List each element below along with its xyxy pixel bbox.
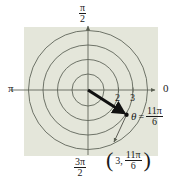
theta-value-fraction: 11π 6 (146, 106, 163, 127)
axis-label-zero: 0 (163, 83, 169, 94)
theta-equals-sign: = (138, 112, 144, 122)
radial-tick-label-3: 3 (130, 93, 135, 103)
pi-over-2-denominator: 2 (79, 14, 86, 24)
coordinate-theta-fraction: 11π 6 (125, 150, 142, 171)
theta-denominator: 6 (146, 117, 163, 127)
coordinate-pair-label: ( 3, 11π 6 ) (106, 150, 151, 171)
pi-over-2-fraction: π 2 (79, 3, 86, 24)
axis-label-pi: π (8, 83, 14, 94)
theta-equation-label: θ = 11π 6 (131, 106, 163, 127)
plotted-point-marker (124, 113, 128, 117)
axis-label-pi-over-2: π 2 (79, 3, 86, 24)
coordinate-open-paren: ( (106, 151, 113, 170)
3pi-over-2-denominator: 2 (74, 168, 86, 178)
polar-plot-canvas (0, 0, 189, 182)
axis-label-3pi-over-2: 3π 2 (74, 157, 86, 178)
coordinate-theta-denominator: 6 (125, 161, 142, 171)
coordinate-close-paren: ) (144, 151, 151, 170)
3pi-over-2-fraction: 3π 2 (74, 157, 86, 178)
coordinate-r-value: 3, (115, 156, 123, 166)
polar-diagram-figure: 0 π π 2 3π 2 2 3 θ = 11π 6 ( 3, 11π 6 (0, 0, 189, 182)
theta-symbol: θ (131, 111, 136, 122)
radial-tick-label-2: 2 (115, 93, 120, 103)
